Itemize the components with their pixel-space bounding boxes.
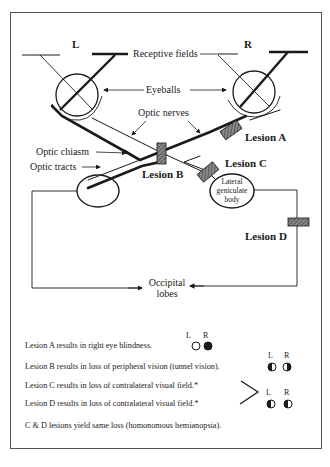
row-a-col-r: R — [203, 331, 208, 340]
lesion-c-label: Lesion C — [225, 157, 267, 169]
left-eyeball — [40, 55, 115, 120]
row-cd-col-r: R — [284, 388, 289, 397]
lesion-d-marker — [288, 218, 309, 226]
optic-tracts-label: Optic tracts — [30, 161, 76, 172]
legend-row-d: Lesion D results in loss of contralatera… — [25, 399, 199, 408]
occipital-lobes-label-line1: Occipital — [149, 277, 186, 288]
row-cd-right-field — [284, 400, 292, 408]
eyeballs-label: Eyeballs — [146, 84, 181, 95]
lesion-b-label: Lesion B — [142, 168, 184, 180]
occipital-lobes-label-line2: lobes — [156, 288, 177, 299]
row-b-col-l: L — [268, 351, 273, 360]
lesion-a-label: Lesion A — [245, 131, 286, 143]
visual-pathway-diagram: L R Receptive fields Eyeballs Optic nerv… — [0, 0, 330, 467]
right-lateral-geniculate-body: Lateral geniculate body — [210, 174, 254, 208]
optic-chiasm-label: Optic chiasm — [36, 146, 89, 157]
lesion-d-label: Lesion D — [245, 230, 287, 242]
cd-bracket — [240, 381, 258, 404]
svg-text:body: body — [225, 195, 240, 204]
row-b-left-field — [268, 363, 276, 371]
left-lateral-geniculate-body — [77, 175, 119, 207]
legend-row-a: Lesion A results in right eye blindness. — [25, 341, 152, 350]
legend-row-b: Lesion B results in loss of peripheral v… — [25, 362, 220, 371]
row-a-right-field — [204, 342, 212, 350]
right-eye-label: R — [244, 38, 253, 50]
row-cd-left-field — [267, 400, 275, 408]
left-eye-label: L — [72, 38, 79, 50]
right-eyeball — [218, 52, 288, 117]
row-b-right-field — [283, 363, 291, 371]
lesion-b-marker — [157, 143, 166, 164]
legend-footnote: C & D lesions yield same loss (homonomou… — [25, 421, 221, 430]
receptive-fields-label: Receptive fields — [133, 48, 198, 59]
legend-row-c: Lesion C results in loss of contralatera… — [25, 381, 198, 390]
row-a-left-field — [192, 342, 200, 350]
optic-nerves-label: Optic nerves — [138, 107, 189, 118]
svg-text:geniculate: geniculate — [217, 186, 248, 195]
row-cd-col-l: L — [266, 388, 271, 397]
row-b-col-r: R — [284, 351, 289, 360]
row-a-col-l: L — [186, 331, 191, 340]
svg-text:Lateral: Lateral — [221, 177, 242, 186]
